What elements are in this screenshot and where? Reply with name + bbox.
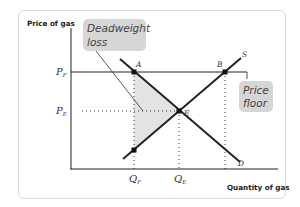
point-e-marker: [177, 109, 182, 114]
deadweight-loss-region: [134, 72, 179, 150]
x-axis-title: Quantity of gas: [227, 183, 290, 192]
point-e-label: E: [183, 109, 190, 118]
qf-label: QF: [129, 173, 141, 185]
point-a-marker: [132, 70, 137, 75]
dwl-label-line1: Deadweight: [87, 22, 151, 34]
y-axis-title: Price of gas: [27, 19, 75, 28]
point-lower-marker: [132, 148, 137, 153]
supply-label: S: [242, 50, 247, 59]
point-b-label: B: [216, 60, 223, 69]
dwl-label-line2: loss: [87, 36, 108, 48]
qe-label: QE: [174, 173, 186, 185]
point-a-label: A: [135, 60, 142, 69]
demand-label: D: [237, 159, 244, 168]
pf-label: PF: [55, 66, 67, 78]
point-b-marker: [223, 70, 228, 75]
chart-svg: Deadweight loss Price floor Price of gas…: [0, 0, 300, 207]
pe-label: PE: [55, 105, 67, 117]
floor-label-line1: Price: [243, 84, 269, 96]
floor-label-line2: floor: [243, 97, 268, 109]
